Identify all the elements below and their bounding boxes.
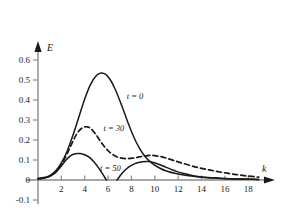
y-tick-label: 0.2 <box>19 135 30 145</box>
curve-t-0 <box>38 73 259 179</box>
y-tick-label: 0.3 <box>19 115 31 125</box>
y-tick-label: -0.1 <box>16 195 30 205</box>
x-tick-label: 6 <box>106 184 111 194</box>
curve-annotation-0: t = 0 <box>127 91 144 101</box>
x-tick-label: 4 <box>82 184 87 194</box>
curve-t-30 <box>38 127 259 179</box>
x-tick-label: 2 <box>59 184 64 194</box>
curve-annotation-1: t = 30 <box>103 123 125 133</box>
x-tick-label: 10 <box>150 184 160 194</box>
y-tick-label: 0.4 <box>19 95 31 105</box>
x-axis-label: k <box>262 163 267 174</box>
tick-layer: -0.100.10.20.30.40.50.624681012141618 <box>16 55 253 205</box>
y-tick-label: 0.1 <box>19 155 30 165</box>
x-tick-label: 8 <box>129 184 134 194</box>
curve-layer <box>38 73 259 180</box>
y-axis-arrow-icon <box>34 41 41 52</box>
x-tick-label: 16 <box>220 184 230 194</box>
y-tick-label: 0.6 <box>19 55 31 65</box>
x-tick-label: 18 <box>244 184 254 194</box>
chart-figure: -0.100.10.20.30.40.50.624681012141618 Ek… <box>0 0 290 213</box>
x-tick-label: 14 <box>197 184 207 194</box>
y-tick-label: 0 <box>26 175 31 185</box>
curve-annotation-2: t = 50 <box>100 163 122 173</box>
energy-spectrum-chart: -0.100.10.20.30.40.50.624681012141618 Ek… <box>0 0 290 213</box>
y-axis-label: E <box>46 42 53 53</box>
x-axis-arrow-icon <box>264 176 275 183</box>
y-tick-label: 0.5 <box>19 75 31 85</box>
x-tick-label: 12 <box>174 184 183 194</box>
